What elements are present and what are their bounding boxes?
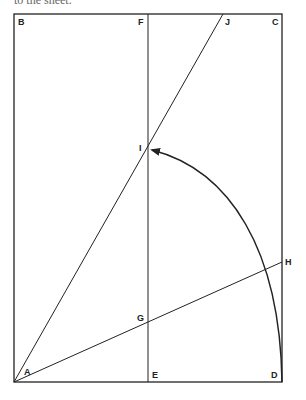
label-I: I bbox=[139, 143, 142, 153]
geometric-construction-diagram: B F J C I H G A E D bbox=[0, 0, 306, 400]
label-D: D bbox=[271, 370, 278, 380]
label-A: A bbox=[24, 367, 31, 377]
label-J: J bbox=[225, 17, 230, 27]
line-AJ bbox=[14, 14, 223, 382]
arc-D-to-I bbox=[152, 150, 282, 382]
label-C: C bbox=[272, 17, 279, 27]
label-E: E bbox=[152, 370, 158, 380]
label-F: F bbox=[138, 17, 144, 27]
label-B: B bbox=[18, 17, 25, 27]
label-G: G bbox=[137, 313, 144, 323]
label-H: H bbox=[285, 257, 292, 267]
